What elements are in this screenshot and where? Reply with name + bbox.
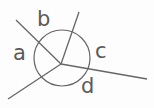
angle-label-b: b — [37, 9, 50, 30]
ray-up — [61, 12, 79, 64]
ray-lower-left — [8, 64, 61, 99]
angle-label-d: d — [81, 76, 94, 97]
angle-label-a: a — [13, 43, 26, 64]
ray-right — [61, 64, 147, 79]
angle-label-c: c — [95, 41, 107, 62]
angle-diagram: a b c d — [0, 0, 154, 108]
